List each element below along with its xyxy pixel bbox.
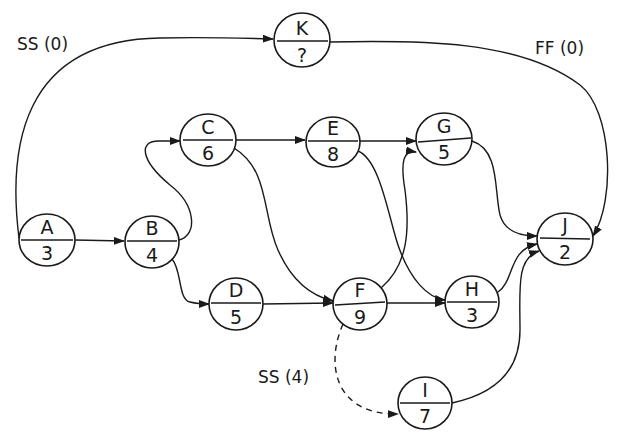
label-ss0: SS (0) <box>17 34 68 54</box>
edge-f-i-ss4 <box>335 324 398 414</box>
edge-d-f <box>263 303 333 304</box>
node-c-id: C <box>201 116 214 138</box>
node-f[interactable]: F 9 <box>333 278 387 330</box>
node-a-id: A <box>41 216 54 238</box>
node-d[interactable]: D 5 <box>209 278 263 330</box>
label-ss4: SS (4) <box>258 367 309 387</box>
node-b[interactable]: B 4 <box>125 216 179 268</box>
edges <box>16 38 608 414</box>
edge-b-d <box>172 259 209 304</box>
node-g-duration: 5 <box>438 141 450 163</box>
node-i-id: I <box>422 379 428 401</box>
node-g[interactable]: G 5 <box>416 113 472 165</box>
node-j-duration: 2 <box>559 241 571 263</box>
node-h-id: H <box>465 278 479 300</box>
precedence-network-diagram: A 3 B 4 C 6 D 5 E 8 <box>0 0 620 444</box>
node-h[interactable]: H 3 <box>445 276 499 328</box>
node-b-duration: 4 <box>146 244 158 266</box>
node-f-id: F <box>355 279 366 301</box>
node-k-duration: ? <box>297 44 307 66</box>
node-h-duration: 3 <box>466 304 478 326</box>
node-k-id: K <box>296 17 309 39</box>
edge-g-j <box>472 141 537 236</box>
node-d-id: D <box>229 279 244 301</box>
node-e[interactable]: E 8 <box>306 117 360 167</box>
node-e-duration: 8 <box>327 143 339 165</box>
edge-f-g <box>381 152 416 288</box>
node-e-id: E <box>327 117 339 139</box>
edge-c-f <box>234 148 333 301</box>
node-j[interactable]: J 2 <box>537 213 593 265</box>
edge-h-j <box>498 244 537 292</box>
node-a[interactable]: A 3 <box>19 214 75 266</box>
node-d-duration: 5 <box>230 306 242 328</box>
node-c-duration: 6 <box>202 142 214 164</box>
node-i-duration: 7 <box>419 405 431 427</box>
node-c[interactable]: C 6 <box>180 114 236 166</box>
node-j-id: J <box>561 214 568 236</box>
node-f-duration: 9 <box>354 306 366 328</box>
edge-a-b <box>75 240 124 241</box>
label-ff0: FF (0) <box>535 38 584 58</box>
node-b-id: B <box>145 217 158 239</box>
node-g-id: G <box>437 115 452 137</box>
node-k[interactable]: K ? <box>274 13 330 67</box>
node-a-duration: 3 <box>41 242 53 264</box>
edge-e-h <box>358 151 445 300</box>
node-i[interactable]: I 7 <box>398 377 452 429</box>
